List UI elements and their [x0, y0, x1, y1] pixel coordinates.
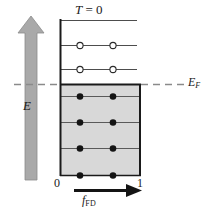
x-axis-title: fFD	[82, 194, 96, 206]
filled-circle-marker	[77, 145, 84, 152]
open-circle-marker	[110, 42, 116, 48]
open-circle-marker	[77, 66, 83, 72]
fermi-dirac-distribution-figure: T = 0 EF E 0 1 fFD	[0, 0, 210, 211]
open-circle-marker	[110, 66, 116, 72]
unoccupied-state-markers	[77, 42, 116, 72]
fermi-energy-subscript: F	[195, 81, 200, 90]
energy-axis-label: E	[23, 99, 31, 112]
filled-circle-marker	[110, 119, 117, 126]
filled-circle-marker	[110, 93, 117, 100]
empty-level-lines	[60, 21, 137, 70]
x-axis-min-tick-label: 0	[54, 177, 60, 189]
filled-circle-marker	[77, 93, 84, 100]
filled-circle-marker	[110, 172, 117, 179]
filled-circle-marker	[77, 172, 84, 179]
occupied-region-fill	[60, 84, 140, 175]
plot-title-value: = 0	[82, 2, 102, 17]
energy-arrow-shape	[18, 16, 44, 180]
filled-circle-marker	[77, 119, 84, 126]
plot-title: T = 0	[75, 3, 103, 16]
open-circle-marker	[77, 42, 83, 48]
figure-canvas	[0, 0, 210, 211]
energy-axis-arrow	[18, 16, 44, 180]
x-axis-title-subscript: FD	[85, 199, 96, 208]
filled-circle-marker	[110, 145, 117, 152]
x-axis-max-tick-label: 1	[137, 177, 143, 189]
fermi-energy-label: EF	[188, 76, 200, 88]
